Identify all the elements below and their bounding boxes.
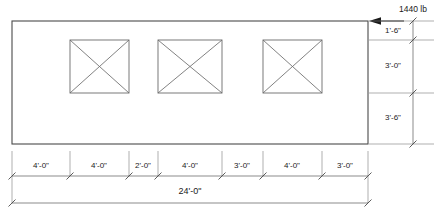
dim-segment-3: 2'-0" (135, 161, 151, 170)
dim-segment-4: 4'-0" (182, 161, 198, 170)
braced-panel-2 (158, 40, 222, 93)
shear-wall-elevation-drawing: 1440 lb 1'-6" 3'-0" 3'-6" (0, 0, 442, 214)
dim-segment-6: 4'-0" (284, 161, 300, 170)
dim-header-height: 1'-6" (385, 26, 401, 35)
dim-opening-height: 3'-0" (385, 61, 401, 70)
dim-segment-7: 3'-0" (337, 161, 353, 170)
drawing-canvas: 1440 lb 1'-6" 3'-0" 3'-6" (0, 0, 442, 214)
braced-panel-3 (263, 40, 322, 93)
load-label: 1440 lb (399, 4, 427, 14)
dim-segment-5: 3'-0" (234, 161, 250, 170)
dim-overall-length: 24'-0" (179, 186, 202, 196)
braced-panel-1 (70, 40, 129, 93)
dim-segment-2: 4'-0" (91, 161, 107, 170)
dim-sill-height: 3'-6" (385, 113, 401, 122)
dim-segment-1: 4'-0" (33, 161, 49, 170)
